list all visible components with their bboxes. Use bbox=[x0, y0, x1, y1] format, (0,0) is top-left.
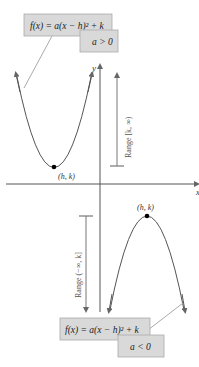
upper-condition: a > 0 bbox=[92, 37, 113, 47]
diagram-canvas: y x (h, k) Range [k, ∞) f(x) = a(x − h)²… bbox=[0, 0, 199, 367]
vertex-label-lower: (h, k) bbox=[137, 203, 154, 212]
vertex-label-upper: (h, k) bbox=[58, 172, 75, 181]
lower-formula: f(x) = a(x − h)² + k bbox=[65, 325, 140, 336]
lower-condition: a < 0 bbox=[130, 342, 151, 352]
parabola-opens-down bbox=[110, 216, 184, 310]
quadratic-vertex-form-diagram: y x (h, k) Range [k, ∞) f(x) = a(x − h)²… bbox=[0, 0, 199, 367]
parabola-opens-up bbox=[17, 77, 91, 168]
range-label-upper: Range [k, ∞) bbox=[124, 116, 133, 158]
vertex-point-upper bbox=[52, 165, 57, 170]
vertex-point-lower bbox=[145, 214, 150, 219]
y-axis-label: y bbox=[91, 63, 96, 73]
upper-callout-leader bbox=[24, 36, 52, 88]
x-axis-label: x bbox=[195, 188, 199, 197]
range-label-lower: Range (−∞, k] bbox=[74, 252, 83, 298]
upper-left-arrow bbox=[16, 74, 20, 92]
lower-callout-leader bbox=[148, 303, 183, 330]
upper-right-arrow bbox=[88, 74, 92, 92]
